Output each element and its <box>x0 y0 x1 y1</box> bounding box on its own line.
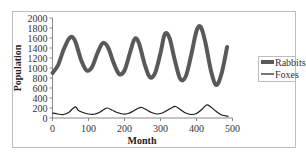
x-tick-label: 100 <box>81 123 96 134</box>
y-tick-label: 600 <box>33 83 48 94</box>
y-tick-label: 1400 <box>28 43 48 54</box>
y-tick-label: 400 <box>33 93 48 104</box>
line-chart: 0200400600800100012001400160018002000 01… <box>0 0 306 161</box>
y-axis-title: Population <box>12 44 23 91</box>
legend: Rabbits Foxes <box>259 57 306 82</box>
legend-label-rabbits: Rabbits <box>275 57 306 68</box>
y-tick-label: 1000 <box>28 63 48 74</box>
legend-label-foxes: Foxes <box>275 69 299 80</box>
x-tick-label: 300 <box>153 123 168 134</box>
x-tick-label: 500 <box>225 123 240 134</box>
y-tick-label: 2000 <box>28 13 48 24</box>
x-tick-label: 400 <box>189 123 204 134</box>
y-tick-label: 800 <box>33 73 48 84</box>
y-tick-label: 200 <box>33 103 48 114</box>
y-tick-label: 1200 <box>28 53 48 64</box>
y-tick-label: 1600 <box>28 33 48 44</box>
x-tick-label: 200 <box>117 123 132 134</box>
x-axis-title: Month <box>128 135 157 146</box>
y-tick-label: 1800 <box>28 23 48 34</box>
y-tick-label: 0 <box>43 113 48 124</box>
x-tick-label: 0 <box>50 123 55 134</box>
